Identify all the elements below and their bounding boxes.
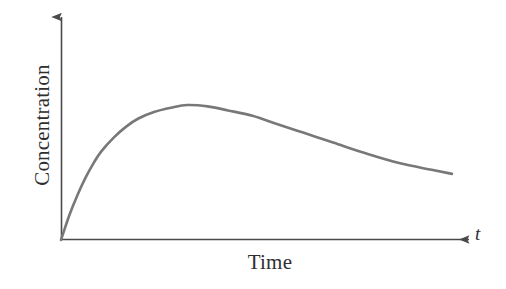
x-axis-title: Time [200, 252, 340, 273]
y-axis-title: Concentration [32, 30, 58, 220]
data-curve-group [61, 105, 452, 240]
concentration-curve [61, 105, 452, 240]
concentration-time-plot [0, 0, 506, 289]
figure-container: Concentration Time t [0, 0, 506, 289]
x-axis-variable-symbol: t [475, 224, 480, 243]
